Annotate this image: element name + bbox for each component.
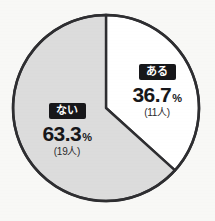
pie-label-aru-percent: 36.7% <box>118 84 196 105</box>
pie-label-aru-percent-value: 36.7 <box>132 83 171 106</box>
pie-label-nai-percent-value: 63.3 <box>42 122 81 145</box>
pie-label-nai-count: (19人) <box>26 147 108 157</box>
pie-label-nai: ない 63.3% (19人) <box>26 101 108 157</box>
pie-label-nai-percent-sign: % <box>82 131 91 143</box>
pie-label-aru-badge: ある <box>139 64 176 80</box>
pie-chart: ある 36.7% (11人) ない 63.3% (19人) <box>0 0 215 221</box>
pie-label-nai-percent: 63.3% <box>26 123 108 144</box>
pie-label-aru-count: (11人) <box>118 108 196 118</box>
pie-label-aru-percent-sign: % <box>172 92 181 104</box>
pie-label-nai-badge: ない <box>49 103 86 119</box>
pie-label-aru: ある 36.7% (11人) <box>118 62 196 118</box>
